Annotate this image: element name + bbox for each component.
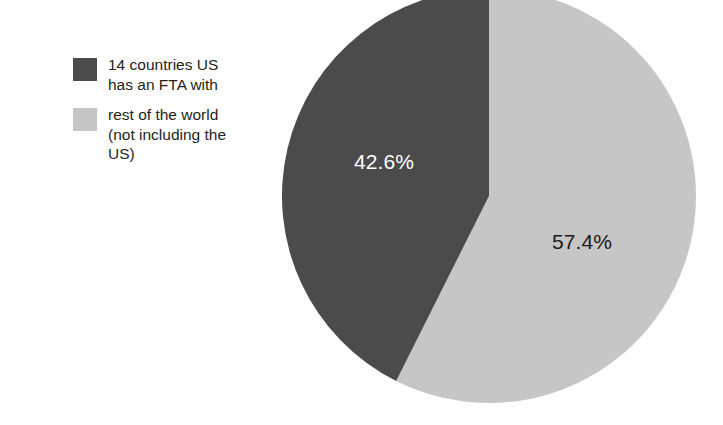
legend-label-rest-of-world: rest of the world (not including the US) (108, 105, 226, 164)
pie-slice-value-fta-countries: 42.6% (354, 150, 414, 174)
pie-chart-figure: 42.6% 57.4% 14 countries US has an FTA w… (0, 0, 723, 425)
pie-chart-svg (282, 0, 696, 403)
legend-label-fta-countries: 14 countries US has an FTA with (108, 55, 218, 94)
legend-swatch-rest-of-world (73, 108, 97, 131)
legend-item-rest-of-world: rest of the world (not including the US) (73, 105, 288, 164)
legend-swatch-fta-countries (73, 58, 97, 81)
pie-chart (282, 0, 696, 403)
chart-legend: 14 countries US has an FTA with rest of … (73, 55, 288, 175)
pie-slice-value-rest-of-world: 57.4% (552, 230, 612, 254)
legend-item-fta-countries: 14 countries US has an FTA with (73, 55, 288, 94)
